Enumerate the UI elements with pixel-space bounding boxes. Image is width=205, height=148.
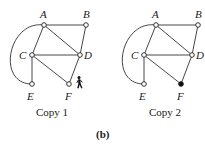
node-a	[42, 23, 47, 28]
node-a	[154, 23, 159, 28]
node-b	[196, 23, 201, 28]
node-b	[84, 23, 89, 28]
edge-a-c	[32, 25, 44, 55]
graph-figure: A B C D E F Copy 1 A B C D	[0, 0, 205, 148]
edge-a-c	[144, 25, 156, 55]
edge-a-d	[44, 25, 80, 55]
label-c: C	[19, 49, 27, 61]
graph-copy-2: A B C D E F Copy 2	[122, 8, 204, 118]
label-c: C	[131, 49, 139, 61]
node-f	[67, 82, 72, 87]
node-d	[78, 53, 83, 58]
caption-copy-2: Copy 2	[149, 106, 181, 118]
arc-a-e	[10, 25, 44, 84]
node-e	[30, 82, 35, 87]
label-d: D	[195, 49, 204, 61]
edge-a-d	[156, 25, 192, 55]
node-c	[30, 53, 35, 58]
label-f: F	[176, 90, 184, 102]
node-d	[190, 53, 195, 58]
graph-copy-1: A B C D E F Copy 1	[10, 8, 92, 118]
node-e	[142, 82, 147, 87]
caption-copy-1: Copy 1	[36, 106, 68, 118]
node-c	[142, 53, 147, 58]
label-b: B	[195, 8, 202, 20]
arc-a-e	[122, 25, 156, 84]
label-b: B	[83, 8, 90, 20]
label-a: A	[39, 8, 47, 20]
label-e: E	[138, 90, 146, 102]
edge-d-f	[181, 55, 192, 84]
edge-c-f	[32, 55, 69, 84]
node-f-filled	[179, 82, 184, 87]
label-a: A	[151, 8, 159, 20]
walking-person-icon	[77, 76, 83, 88]
figure-label: (b)	[96, 128, 110, 141]
edge-c-f	[144, 55, 181, 84]
label-f: F	[64, 90, 72, 102]
label-d: D	[83, 49, 92, 61]
label-e: E	[26, 90, 34, 102]
